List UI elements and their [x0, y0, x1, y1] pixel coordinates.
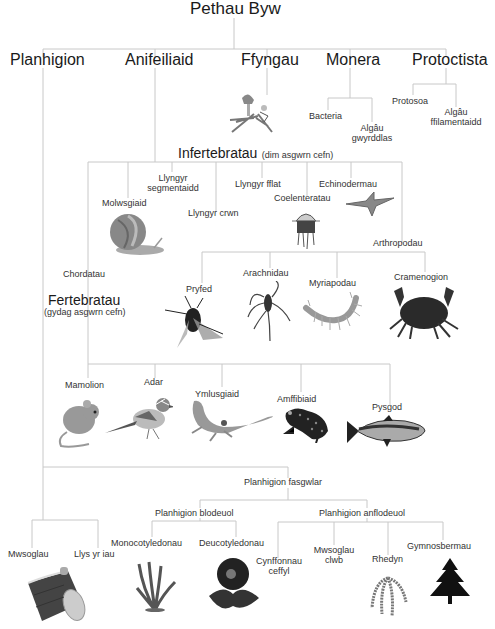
label-bacteria: Bacteria	[309, 112, 342, 122]
label-coelenterates: Coelenteratau	[274, 194, 331, 204]
frog-illustration	[282, 405, 332, 443]
label-roundworms: Llyngyr crwn	[188, 209, 239, 219]
label-liverworts: Llys yr iau	[74, 550, 115, 560]
label-monocots: Monocotyledonau	[111, 539, 182, 549]
kingdom-fungi: Ffyngau	[241, 51, 299, 69]
jellyfish-illustration	[290, 207, 322, 251]
label-molluscs: Molwsgiaid	[102, 199, 147, 209]
label-ferns: Rhedyn	[372, 555, 403, 565]
bird-illustration	[105, 395, 173, 441]
label-flatworms: Llyngyr fflat	[235, 180, 281, 190]
label-chordates: Chordatau	[63, 270, 105, 280]
mushroom-illustration	[228, 92, 284, 138]
invertebrates-subtitle: (dim asgwrn cefn)	[262, 150, 334, 160]
label-blue-green-algae: Algâu gwyrddlas	[348, 124, 396, 144]
starfish-illustration	[344, 190, 396, 218]
label-fish: Pysgod	[372, 403, 402, 413]
kingdom-animals: Anifeiliaid	[125, 51, 193, 69]
label-birds: Adar	[144, 378, 163, 388]
label-arachnids: Arachnidau	[243, 269, 289, 279]
invertebrates-title: Infertebratau	[178, 145, 257, 161]
vertebrates-subtitle: (gydag asgwrn cefn)	[44, 308, 126, 318]
snail-illustration	[104, 210, 166, 258]
centipede-illustration	[302, 292, 366, 334]
label-mammals: Mamolion	[65, 381, 104, 391]
label-amphibians: Amffibiaid	[277, 395, 316, 405]
label-filamentous-algae: Algâu ffilamentaidd	[425, 108, 487, 128]
dicot-flower-illustration	[203, 556, 263, 614]
invertebrates-heading: Infertebratau (dim asgwrn cefn)	[178, 144, 333, 162]
fish-illustration	[345, 415, 427, 449]
label-arthropods: Arthropodau	[373, 239, 423, 249]
label-myriapods: Myriapodau	[309, 279, 356, 289]
fern-illustration	[368, 568, 410, 616]
fly-illustration	[163, 294, 227, 350]
mossy-log-illustration	[24, 567, 86, 625]
label-non-flowering-plants: Planhigion anflodeuol	[319, 509, 405, 519]
kingdom-protoctista: Protoctista	[412, 51, 488, 69]
conifer-tree-illustration	[428, 556, 472, 606]
kingdom-plants: Planhigion	[10, 51, 85, 69]
label-mosses: Mwsoglau	[8, 550, 49, 560]
label-vascular-plants: Planhigion fasgwlar	[244, 478, 322, 488]
label-crustaceans: Cramenogion	[394, 273, 448, 283]
label-gymnosperms: Gymnosbermau	[407, 542, 471, 552]
label-dicots: Deucotyledonau	[199, 539, 264, 549]
label-protozoa: Protosoa	[392, 97, 428, 107]
spider-illustration	[246, 281, 296, 343]
crab-illustration	[388, 283, 460, 339]
label-echinoderms: Echinodermau	[319, 180, 377, 190]
root-label: Pethau Byw	[190, 0, 281, 19]
label-flowering-plants: Planhigion blodeuol	[155, 509, 234, 519]
monocot-plant-illustration	[135, 560, 177, 612]
label-segmented-worms: Llyngyr segmentaidd	[142, 174, 204, 194]
mouse-illustration	[55, 398, 105, 450]
lizard-illustration	[188, 397, 276, 443]
kingdom-monera: Monera	[326, 51, 380, 69]
label-clubmosses: Mwsoglau clwb	[308, 546, 360, 566]
